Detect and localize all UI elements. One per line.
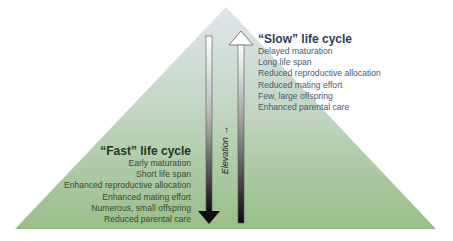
elevation-text: Elevation <box>220 137 230 174</box>
slow-item: Reduced mating effort <box>258 80 381 91</box>
fast-item: Short life span <box>64 169 191 180</box>
slow-item: Enhanced parental care <box>258 102 381 113</box>
fast-item: Enhanced mating effort <box>64 192 191 203</box>
fast-item: Reduced parental care <box>64 214 191 225</box>
fast-item: Enhanced reproductive allocation <box>64 180 191 191</box>
slow-heading: “Slow” life cycle <box>258 32 381 46</box>
fast-life-cycle-block: “Fast” life cycle Early maturation Short… <box>64 144 191 225</box>
fast-item: Numerous, small offspring <box>64 203 191 214</box>
slow-item: Few, large offspring <box>258 91 381 102</box>
slow-item: Delayed maturation <box>258 46 381 57</box>
elevation-arrow-icon: → <box>220 126 230 135</box>
fast-item: Early maturation <box>64 158 191 169</box>
fast-heading: “Fast” life cycle <box>64 144 191 158</box>
slow-item: Reduced reproductive allocation <box>258 68 381 79</box>
slow-life-cycle-block: “Slow” life cycle Delayed maturation Lon… <box>258 32 381 113</box>
slow-item: Long life span <box>258 57 381 68</box>
elevation-label: Elevation → <box>220 126 230 175</box>
